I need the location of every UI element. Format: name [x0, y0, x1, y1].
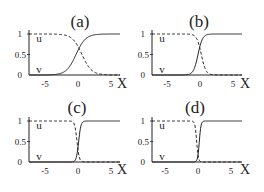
- label-u: u: [36, 119, 42, 131]
- y-tick-label: 0.5: [138, 50, 150, 60]
- x-tick-label: 5: [109, 166, 114, 176]
- curve-u: [152, 121, 242, 162]
- y-tick-label: 1: [18, 116, 23, 126]
- y-tick-label: 1: [18, 29, 23, 39]
- curve-u: [29, 34, 120, 75]
- x-axis-label: X: [240, 76, 250, 91]
- x-tick-label: 0: [198, 79, 203, 89]
- panel-title: (a): [71, 12, 90, 31]
- x-tick-label: -5: [161, 166, 169, 176]
- panel-title: (d): [185, 98, 205, 117]
- x-axis-label: X: [240, 162, 250, 177]
- y-tick-label: 0.5: [138, 137, 150, 147]
- panel-title: (c): [68, 98, 87, 117]
- panel-title: (b): [189, 12, 209, 31]
- curve-v: [29, 121, 120, 162]
- x-tick-label: -5: [163, 79, 171, 89]
- curve-u: [152, 34, 242, 75]
- y-tick-label: 1: [141, 29, 146, 39]
- four-panel-sigmoid-chart: (a)10.50-505Xuv(b)10.50-505Xuv(c)10.50-5…: [0, 0, 264, 192]
- x-tick-label: 0: [76, 166, 81, 176]
- x-tick-label: 0: [196, 166, 201, 176]
- y-tick-label: 0: [18, 157, 23, 167]
- label-u: u: [159, 119, 165, 131]
- x-tick-label: 5: [229, 166, 234, 176]
- y-tick-label: 1: [141, 116, 146, 126]
- panel-b: (b)10.50-505Xuv: [138, 12, 250, 91]
- label-v: v: [159, 150, 165, 162]
- label-u: u: [36, 32, 42, 44]
- panel-d: (d)10.50-505Xuv: [138, 98, 250, 177]
- label-v: v: [36, 150, 42, 162]
- x-tick-label: 0: [76, 79, 81, 89]
- y-tick-label: 0: [18, 70, 23, 80]
- x-tick-label: 5: [231, 79, 236, 89]
- x-axis-label: X: [117, 76, 127, 91]
- y-tick-label: 0: [141, 157, 146, 167]
- y-tick-label: 0.5: [15, 50, 27, 60]
- label-v: v: [159, 63, 165, 75]
- x-axis-label: X: [117, 162, 127, 177]
- label-v: v: [36, 63, 42, 75]
- y-tick-label: 0: [141, 70, 146, 80]
- panel-c: (c)10.50-505Xuv: [15, 98, 127, 177]
- x-tick-label: -5: [41, 79, 49, 89]
- curve-u: [29, 121, 120, 162]
- curve-v: [29, 34, 120, 75]
- panel-a: (a)10.50-505Xuv: [15, 12, 127, 91]
- y-tick-label: 0.5: [15, 137, 27, 147]
- x-tick-label: 5: [109, 79, 114, 89]
- x-tick-label: -5: [41, 166, 49, 176]
- label-u: u: [159, 32, 165, 44]
